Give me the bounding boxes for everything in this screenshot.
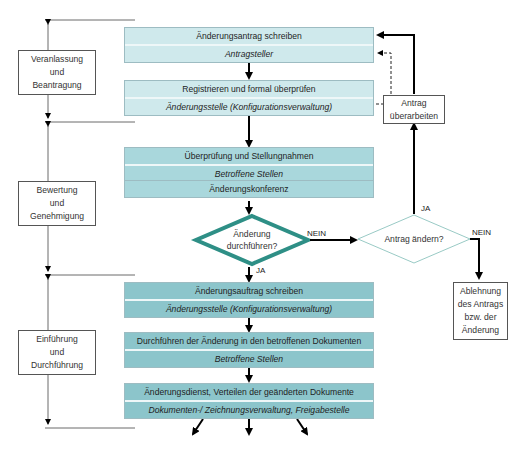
step-title: Durchführen der Änderung in den betroffe… bbox=[125, 333, 373, 349]
step-durchfuehren: Durchführen der Änderung in den betroffe… bbox=[124, 332, 374, 368]
edge-label-secondary-no: NEIN bbox=[472, 228, 491, 237]
edge-label-main-yes: JA bbox=[256, 266, 265, 275]
phase-einfuehrung: Einführung und Durchführung bbox=[18, 330, 96, 375]
step-aenderungsdienst: Änderungsdienst, Verteilen der geänderte… bbox=[124, 383, 374, 419]
edge-label-main-no: NEIN bbox=[307, 229, 326, 238]
phase-line: und bbox=[19, 346, 95, 359]
phase-line: Durchführung bbox=[19, 359, 95, 372]
step-actor: Antragsteller bbox=[125, 46, 373, 62]
phase-line: Bewertung bbox=[19, 184, 95, 197]
step-registrieren: Registrieren und formal überprüfen Änder… bbox=[124, 80, 374, 116]
step-antrag-schreiben: Änderungsantrag schreiben Antragsteller bbox=[124, 27, 374, 63]
step-title: Änderungsantrag schreiben bbox=[125, 28, 373, 44]
step-actor: Betroffene Stellen bbox=[125, 351, 373, 367]
box-line: überarbeiten bbox=[384, 110, 444, 123]
edge-label-secondary-yes: JA bbox=[421, 204, 430, 213]
decision-line: durchführen? bbox=[206, 240, 298, 252]
phase-line: und bbox=[19, 66, 95, 79]
step-title: Änderungskonferenz bbox=[125, 181, 373, 197]
box-line: bzw. der bbox=[454, 311, 507, 324]
box-line: Ablehnung bbox=[454, 285, 507, 298]
phase-line: Genehmigung bbox=[19, 210, 95, 223]
decision-main-text: Änderung durchführen? bbox=[206, 228, 298, 252]
phase-line: und bbox=[19, 197, 95, 210]
step-actor: Änderungsstelle (Konfigurationsverwaltun… bbox=[125, 301, 373, 317]
step-title: Änderungsdienst, Verteilen der geänderte… bbox=[125, 384, 373, 400]
step-ueberpruefung: Überprüfung und Stellungnahmen Betroffen… bbox=[124, 147, 374, 183]
step-title: Registrieren und formal überprüfen bbox=[125, 81, 373, 97]
box-line: des Antrags bbox=[454, 298, 507, 311]
phase-bewertung: Bewertung und Genehmigung bbox=[18, 181, 96, 226]
decision-line: Änderung bbox=[206, 228, 298, 240]
reject-box: Ablehnung des Antrags bzw. der Änderung bbox=[453, 282, 508, 340]
revise-request-box: Antrag überarbeiten bbox=[383, 95, 445, 124]
phase-line: Beantragung bbox=[19, 79, 95, 92]
step-actor: Dokumenten-/ Zeichnungsverwaltung, Freig… bbox=[125, 402, 373, 418]
decision-line: Antrag ändern? bbox=[368, 233, 460, 245]
step-auftrag: Änderungsauftrag schreiben Änderungsstel… bbox=[124, 282, 374, 318]
phase-line: Veranlassung bbox=[19, 53, 95, 66]
phase-line: Einführung bbox=[19, 333, 95, 346]
phase-veranlassung: Veranlassung und Beantragung bbox=[18, 50, 96, 95]
step-actor: Änderungsstelle (Konfigurationsverwaltun… bbox=[125, 99, 373, 115]
step-title: Änderungsauftrag schreiben bbox=[125, 283, 373, 299]
box-line: Antrag bbox=[384, 97, 444, 110]
step-title: Überprüfung und Stellungnahmen bbox=[125, 148, 373, 164]
step-konferenz: Änderungskonferenz bbox=[124, 180, 374, 198]
box-line: Änderung bbox=[454, 324, 507, 337]
decision-secondary-text: Antrag ändern? bbox=[368, 233, 460, 245]
